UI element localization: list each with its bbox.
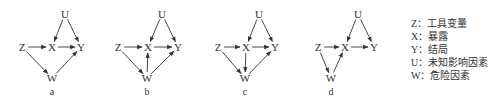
node-u: U (255, 8, 263, 20)
diagram-b: UZXYWb (115, 8, 182, 97)
edge-w-to-x (334, 53, 343, 73)
diagram-d: UZXYWd (315, 8, 378, 97)
legend-text: 危险因素 (430, 70, 470, 81)
edge-w-to-y (249, 51, 271, 73)
node-x: X (242, 41, 250, 53)
diagram-label: a (50, 86, 55, 97)
edge-w-to-x (147, 53, 148, 72)
legend-text: 结局 (428, 44, 448, 55)
node-u: U (354, 8, 362, 20)
edge-z-to-w (222, 52, 241, 74)
edge-u-to-y (165, 19, 176, 41)
legend-sep: ： (418, 31, 428, 42)
node-w: W (240, 72, 251, 84)
node-x: X (48, 41, 56, 53)
diagram-label: d (329, 86, 334, 97)
node-x: X (341, 41, 349, 53)
edge-w-to-y (151, 51, 174, 74)
legend-text: 未知影响因素 (428, 57, 488, 68)
edge-z-to-w (26, 51, 48, 73)
node-w: W (47, 72, 58, 84)
edge-u-to-y (68, 19, 79, 41)
edge-u-to-x (248, 20, 257, 42)
edge-z-to-w (122, 51, 143, 73)
legend-item-x: X：暴露 (411, 30, 488, 43)
diagram-label: b (145, 86, 150, 97)
legend-text: 暴露 (428, 31, 448, 42)
node-x: X (144, 41, 152, 53)
edge-u-to-x (54, 20, 63, 42)
diagram-label: c (243, 86, 248, 97)
node-u: U (61, 8, 69, 20)
node-z: Z (215, 41, 222, 53)
legend-item-w: W：危险因素 (411, 69, 488, 82)
node-u: U (158, 8, 166, 20)
node-y: Y (77, 41, 85, 53)
diagram-c: UZXYWc (215, 8, 279, 97)
edge-u-to-x (347, 20, 356, 42)
diagram-a: UZXYWa (19, 8, 85, 97)
node-w: W (142, 72, 153, 84)
edge-u-to-y (361, 19, 372, 41)
legend: Z：工具变量 X：暴露 Y：结局 U：未知影响因素 W：危险因素 (411, 17, 488, 82)
node-y: Y (370, 41, 378, 53)
node-z: Z (115, 41, 122, 53)
edge-u-to-y (262, 19, 273, 41)
edge-x-to-w (245, 53, 246, 72)
edge-w-to-y (56, 51, 77, 73)
node-w: W (326, 72, 337, 84)
legend-text: 工具变量 (427, 18, 467, 29)
legend-sep: ： (418, 44, 428, 55)
edge-z-to-w (320, 53, 328, 73)
legend-item-z: Z：工具变量 (411, 17, 488, 30)
legend-sep: ： (420, 70, 430, 81)
node-z: Z (315, 41, 322, 53)
node-y: Y (174, 41, 182, 53)
legend-item-y: Y：结局 (411, 43, 488, 56)
legend-item-u: U：未知影响因素 (411, 56, 488, 69)
legend-sep: ： (417, 18, 427, 29)
legend-sep: ： (418, 57, 428, 68)
edge-u-to-x (150, 20, 159, 42)
node-z: Z (19, 41, 26, 53)
node-y: Y (271, 41, 279, 53)
